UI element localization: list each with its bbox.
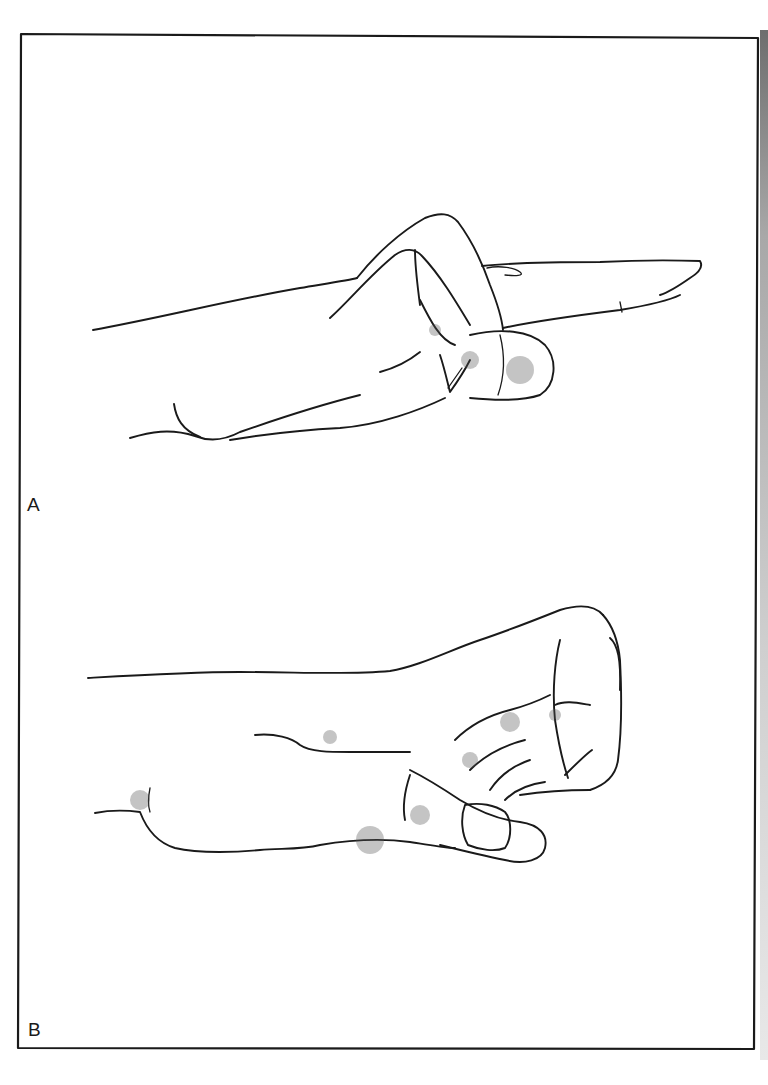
hand-illustration-b [88,607,621,862]
panel-label-a: A [27,494,40,516]
figure-canvas [0,0,768,1085]
panel-label-b: B [28,1019,41,1041]
figure-border [18,34,758,1049]
hand-illustration-a [93,214,701,440]
